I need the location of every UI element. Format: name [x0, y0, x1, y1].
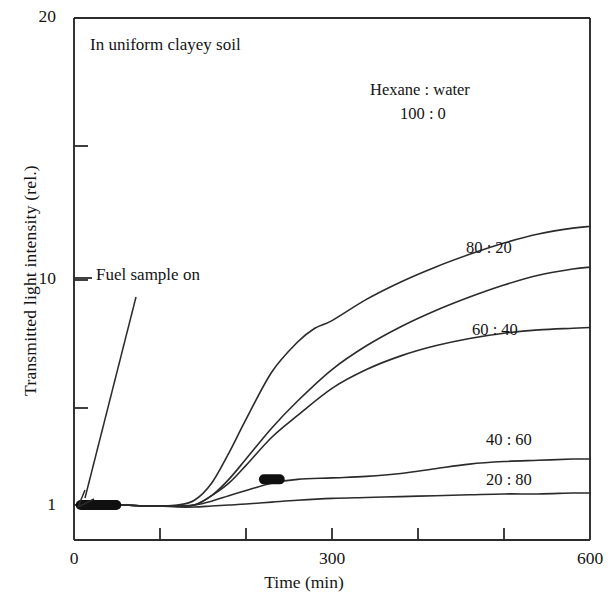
- y-tick-label-10: 10: [10, 268, 56, 289]
- marker-cluster-2: [259, 474, 285, 484]
- series-group-header: Hexane : water: [370, 80, 470, 100]
- plot-canvas: [0, 0, 608, 599]
- x-tick-label-300: 300: [302, 548, 362, 569]
- y-axis-ticks: [74, 146, 88, 505]
- x-axis-ticks: [160, 528, 504, 540]
- x-tick-label-600: 600: [560, 548, 608, 569]
- curve-20-80: [74, 493, 590, 507]
- fuel-sample-annotation: Fuel sample on: [96, 265, 200, 285]
- series-label-60-40: 60 : 40: [472, 320, 518, 340]
- fuel-sample-arrow-icon: [74, 278, 136, 507]
- series-label-100-0: 100 : 0: [400, 104, 446, 124]
- plot-title: In uniform clayey soil: [90, 35, 241, 55]
- series-label-80-20: 80 : 20: [466, 238, 512, 258]
- x-axis-title: Time (min): [0, 572, 608, 593]
- figure-chart: Transmitted light intensity (rel.) Time …: [0, 0, 608, 599]
- y-tick-label-1: 1: [10, 494, 56, 515]
- series-label-40-60: 40 : 60: [486, 430, 532, 450]
- x-tick-label-0: 0: [44, 548, 104, 569]
- series-label-20-80: 20 : 80: [486, 470, 532, 490]
- y-tick-label-20: 20: [10, 6, 56, 27]
